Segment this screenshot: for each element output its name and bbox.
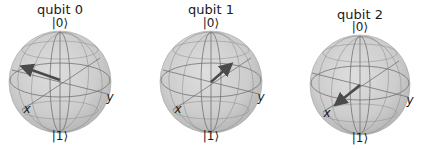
ket-one-label: |1⟩ [52,129,68,143]
y-axis-label: y [405,93,414,107]
ket-zero-label: |0⟩ [203,16,219,30]
x-axis-label: x [22,102,31,116]
ket-zero-label: |0⟩ [52,16,68,30]
x-axis-label: x [173,102,182,116]
qubit-1-title: qubit 1 [188,2,234,17]
bloch-sphere-qubit-0: qubit 0 |0⟩ |1⟩ x y [9,2,114,143]
qubit-0-title: qubit 0 [37,2,83,17]
bloch-multivector-figure: qubit 0 |0⟩ |1⟩ x y qubit 1 [0,0,424,149]
x-axis-label: x [322,106,331,120]
ket-zero-label: |0⟩ [352,20,368,34]
bloch-sphere-qubit-2: qubit 2 |0⟩ |1⟩ x y [310,7,414,145]
ket-one-label: |1⟩ [352,131,368,145]
bloch-sphere-qubit-1: qubit 1 |0⟩ |1⟩ x y [160,2,265,143]
y-axis-label: y [256,90,265,104]
y-axis-label: y [105,90,114,104]
ket-one-label: |1⟩ [203,129,219,143]
